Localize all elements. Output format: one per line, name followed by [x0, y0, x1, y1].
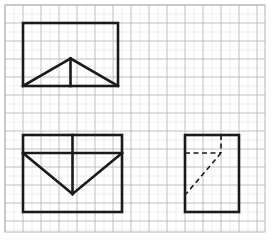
geometry-worksheet [0, 0, 271, 240]
figure-canvas [0, 0, 271, 240]
